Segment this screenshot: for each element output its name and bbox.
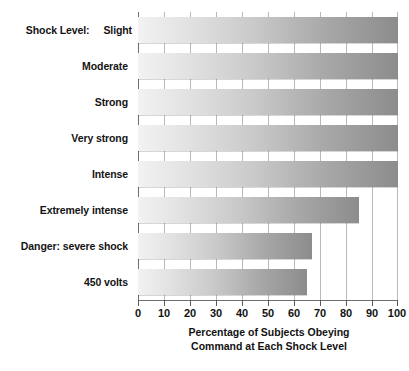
- x-tick-60: [294, 300, 295, 306]
- x-tick-50: [268, 300, 269, 306]
- x-tick-label-100: 100: [388, 307, 406, 319]
- x-tick-label-40: 40: [236, 307, 248, 319]
- x-axis-title-line-1: Percentage of Subjects Obeying: [138, 326, 400, 340]
- x-tick-label-60: 60: [288, 307, 300, 319]
- bar-very-strong: [138, 125, 398, 151]
- category-row-2: Strong: [0, 84, 132, 120]
- category-row-0: Shock Level: Slight: [0, 12, 136, 48]
- x-tick-90: [372, 300, 373, 306]
- x-axis-title-line-2: Command at Each Shock Level: [138, 340, 400, 354]
- x-tick-label-80: 80: [340, 307, 352, 319]
- bar-chart: Shock Level: Slight Moderate Strong Very…: [0, 0, 409, 371]
- category-label-slight: Slight: [103, 24, 132, 36]
- category-label-group: Shock Level: Slight Moderate Strong Very…: [0, 12, 132, 300]
- bar-moderate: [138, 53, 398, 79]
- category-row-5: Extremely intense: [0, 192, 132, 228]
- category-label-intense: Intense: [92, 168, 132, 180]
- x-tick-label-10: 10: [158, 307, 170, 319]
- x-tick-40: [242, 300, 243, 306]
- x-tick-label-20: 20: [184, 307, 196, 319]
- y-axis-title: Shock Level:: [26, 24, 90, 36]
- x-tick-100: [397, 300, 398, 306]
- bar-strong: [138, 89, 398, 115]
- bar-intense: [138, 161, 398, 187]
- x-tick-label-70: 70: [314, 307, 326, 319]
- x-tick-10: [164, 300, 165, 306]
- category-label-very-strong: Very strong: [71, 132, 132, 144]
- bar-danger-severe-shock: [138, 233, 312, 259]
- x-tick-80: [346, 300, 347, 306]
- category-label-moderate: Moderate: [82, 60, 132, 72]
- x-tick-30: [216, 300, 217, 306]
- x-tick-70: [320, 300, 321, 306]
- bar-slight: [138, 17, 398, 43]
- plot-area: [138, 12, 398, 300]
- x-tick-label-90: 90: [366, 307, 378, 319]
- category-row-6: Danger: severe shock: [0, 228, 132, 264]
- bar-extremely-intense: [138, 197, 359, 223]
- category-row-3: Very strong: [0, 120, 132, 156]
- category-label-strong: Strong: [95, 96, 132, 108]
- x-tick-label-0: 0: [135, 307, 141, 319]
- bar-450-volts: [138, 269, 307, 295]
- category-row-4: Intense: [0, 156, 132, 192]
- x-tick-label-30: 30: [210, 307, 222, 319]
- x-tick-label-50: 50: [262, 307, 274, 319]
- category-label-extremely-intense: Extremely intense: [40, 204, 132, 216]
- category-label-450-volts: 450 volts: [84, 276, 132, 288]
- category-row-7: 450 volts: [0, 264, 132, 300]
- category-row-1: Moderate: [0, 48, 132, 84]
- x-axis-title: Percentage of Subjects Obeying Command a…: [138, 326, 400, 353]
- x-tick-0: [138, 300, 139, 306]
- x-tick-20: [190, 300, 191, 306]
- category-label-danger-severe-shock: Danger: severe shock: [21, 240, 132, 252]
